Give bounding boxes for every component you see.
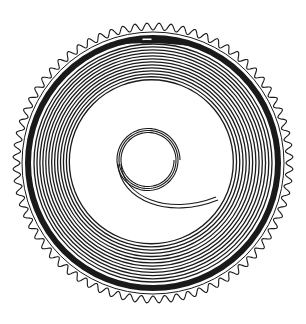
- mainspring-barrel-diagram: [0, 0, 306, 324]
- mainspring-coils: [34, 44, 272, 282]
- arbor-inner-coil: [117, 129, 218, 208]
- barrel-illustration: [0, 0, 306, 324]
